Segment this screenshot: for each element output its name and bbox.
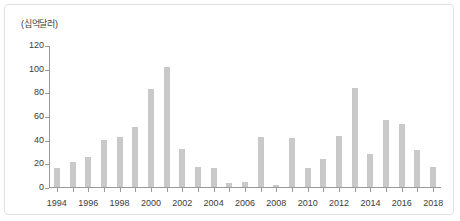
y-axis-tick-label: 80	[34, 87, 44, 97]
x-axis-tick-label: 1998	[110, 198, 130, 208]
x-axis-tick	[339, 188, 340, 192]
y-axis-tick-label: 60	[34, 111, 44, 121]
x-axis-tick	[120, 188, 121, 192]
x-axis-tick	[245, 188, 246, 192]
plot-area: 020406080100120 199419961998200020022004…	[49, 46, 441, 188]
x-axis-tick	[308, 188, 309, 192]
x-axis-tick-label: 1996	[78, 198, 98, 208]
x-axis-tick	[214, 188, 215, 192]
x-axis-tick	[182, 188, 183, 192]
y-axis-tick-label: 20	[34, 158, 44, 168]
x-axis-tick	[104, 188, 105, 192]
x-axis-tick-label: 2008	[266, 198, 286, 208]
y-axis-tick-label: 40	[34, 135, 44, 145]
chart-frame: (십억달러) 020406080100120 19941996199820002…	[4, 4, 454, 215]
x-axis-tick	[229, 188, 230, 192]
x-axis-tick-label: 2004	[204, 198, 224, 208]
x-axis-tick	[151, 188, 152, 192]
x-axis-tick	[261, 188, 262, 192]
x-axis-tick	[88, 188, 89, 192]
x-axis-tick	[57, 188, 58, 192]
x-axis-tick	[386, 188, 387, 192]
y-axis-tick-label: 120	[29, 40, 44, 50]
x-axis-tick-label: 2006	[235, 198, 255, 208]
x-axis-tick	[433, 188, 434, 192]
y-axis-tick-label: 100	[29, 64, 44, 74]
x-axis-tick	[276, 188, 277, 192]
y-axis-tick	[45, 188, 49, 189]
x-axis-tick-label: 2018	[423, 198, 443, 208]
x-axis-tick	[292, 188, 293, 192]
x-axis-tick-label: 1994	[47, 198, 67, 208]
x-axis-tick-label: 2002	[172, 198, 192, 208]
x-axis-tick	[417, 188, 418, 192]
x-axis-tick	[323, 188, 324, 192]
x-axis-tick	[402, 188, 403, 192]
x-axis-tick-label: 2016	[392, 198, 412, 208]
x-axis-tick-label: 2014	[360, 198, 380, 208]
x-axis: 1994199619982000200220042006200820102012…	[49, 46, 441, 188]
x-axis-tick	[355, 188, 356, 192]
bar-chart: (십억달러) 020406080100120 19941996199820002…	[5, 5, 455, 216]
x-axis-tick	[135, 188, 136, 192]
x-axis-tick	[198, 188, 199, 192]
y-axis-tick-label: 0	[39, 182, 44, 192]
x-axis-tick	[73, 188, 74, 192]
y-axis-unit-caption: (십억달러)	[21, 17, 58, 30]
x-axis-tick-label: 2000	[141, 198, 161, 208]
x-axis-tick-label: 2012	[329, 198, 349, 208]
x-axis-tick-label: 2010	[298, 198, 318, 208]
x-axis-tick	[167, 188, 168, 192]
x-axis-tick	[370, 188, 371, 192]
